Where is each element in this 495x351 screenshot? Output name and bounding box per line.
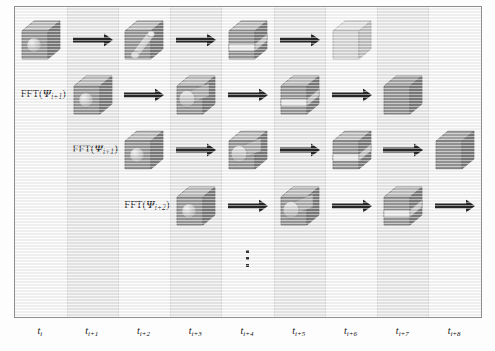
cube-row-4-stage-2-cube-with-slab [380,183,426,229]
psi-subscript: i+2 [155,203,166,212]
arrow-row-2-1 [228,88,268,102]
figure-root: FFT(Ψi)FFT(Ψi+1)FFT(Ψi+1)FFT(Ψi+2) titi+… [0,0,495,351]
psi-symbol: Ψ [43,88,52,99]
fft-label-suffix: ) [114,143,118,154]
arrow-row-2-2 [332,88,372,102]
arrow-row-4-0 [228,199,268,213]
cube-row-4-stage-0-cube-with-sphere [173,183,219,229]
psi-subscript: i+1 [51,92,62,101]
tick-label-2: ti+2 [137,325,150,338]
fft-label-row-3: FFT(Ψi+1) [72,143,117,156]
arrow-row-1-1 [176,33,216,47]
column-band-3 [170,7,222,317]
ellipsis-dot [246,264,249,267]
cube-row-1-stage-1-cube-with-tilted-cylinder [121,17,167,63]
tick-subscript: i [40,330,42,338]
fft-label-row-2: FFT(Ψi+1) [21,88,66,101]
cube-row-2-stage-0-cube-with-sphere [70,72,116,118]
tick-subscript: i+1 [88,330,98,338]
column-band-1 [67,7,119,317]
fft-label-prefix: FFT( [124,199,146,210]
tick-subscript: i+3 [192,330,202,338]
psi-symbol: Ψ [94,143,103,154]
tick-subscript: i+5 [295,330,305,338]
arrow-row-3-0 [176,143,216,157]
tick-label-5: ti+5 [292,325,305,338]
arrow-row-1-0 [73,33,113,47]
column-band-7 [377,7,429,317]
tick-label-4: ti+4 [241,325,254,338]
column-band-5 [274,7,326,317]
fft-label-prefix: FFT( [72,143,94,154]
plot-frame: FFT(Ψi)FFT(Ψi+1)FFT(Ψi+1)FFT(Ψi+2) [14,6,482,318]
vertical-ellipsis [246,250,249,267]
cube-row-1-stage-0-cube-with-sphere [18,17,64,63]
cube-row-2-stage-3-plain-cube-dark [380,72,426,118]
tick-subscript: i+7 [399,330,409,338]
cube-row-3-stage-1-cube-with-cylinder [225,127,271,173]
psi-symbol: Ψ [146,199,155,210]
tick-label-6: ti+6 [344,325,357,338]
tick-subscript: i+6 [347,330,357,338]
tick-subscript: i+2 [140,330,150,338]
fft-label-prefix: FFT( [21,88,43,99]
psi-subscript: i+1 [103,147,114,156]
tick-label-7: ti+7 [396,325,409,338]
cube-row-2-stage-2-cube-with-slab [277,72,323,118]
cube-row-2-stage-1-cube-with-cylinder [173,72,219,118]
cube-row-3-stage-0-cube-with-sphere [121,127,167,173]
tick-label-1: ti+1 [85,325,98,338]
cube-row-4-stage-1-cube-with-cylinder [277,183,323,229]
cube-row-1-stage-3-plain-cube-light [329,17,375,63]
tick-subscript: i+8 [450,330,460,338]
arrow-row-1-2 [280,33,320,47]
cube-row-1-stage-2-cube-with-slab [225,17,271,63]
tick-label-0: ti [38,325,43,338]
fft-label-suffix: ) [166,199,170,210]
arrow-row-4-2 [435,199,475,213]
arrow-row-3-2 [383,143,423,157]
arrow-row-3-1 [280,143,320,157]
cube-row-3-stage-3-plain-cube-dark [432,127,478,173]
tick-label-3: ti+3 [189,325,202,338]
fft-label-row-4: FFT(Ψi+2) [124,199,169,212]
tick-label-8: ti+8 [448,325,461,338]
tick-subscript: i+4 [243,330,253,338]
ellipsis-dot [246,250,249,253]
cube-row-3-stage-2-cube-with-slab [329,127,375,173]
arrow-row-4-1 [332,199,372,213]
ellipsis-dot [246,257,249,260]
arrow-row-2-0 [124,88,164,102]
fft-label-suffix: ) [62,88,66,99]
